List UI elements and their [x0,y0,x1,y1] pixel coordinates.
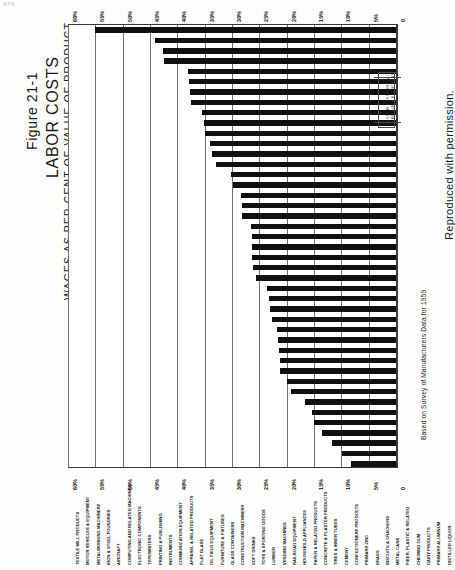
chart-title: LABOR COSTS [44,56,62,178]
bar [280,358,396,363]
bar [270,306,396,311]
bar [342,451,396,456]
bar [351,461,396,466]
bar [242,213,396,218]
category-label: PRINTING & PUBLISHING [158,513,163,565]
page-number: 474 [3,1,15,7]
tick-label: 35% [209,479,215,490]
bar [272,317,396,322]
category-label: BISCUITS & CRACKERS [385,516,390,565]
category-label: TOYS & SPORTING GOODS [261,509,266,565]
tick-label: 10% [345,479,351,490]
bar [287,379,396,384]
bar [252,234,396,239]
tick-label: 5% [373,482,379,490]
bar [190,89,396,94]
tick-label: 20% [291,11,297,22]
category-label: ELECTRONIC COMPONENTS [137,506,142,565]
category-label: DAIRY PRODUCTS [426,527,431,565]
credit-department: RESEARCH DEPARTMENT [391,73,395,119]
bar [256,275,396,280]
bar [332,440,397,445]
category-label: TEXTILE MILL PRODUCTS [75,512,80,565]
bar [253,265,396,270]
permission-note: Reproduced with permission. [443,90,455,240]
bar [212,151,396,156]
bar [291,389,396,394]
category-label: INSTRUMENTS [168,535,173,565]
category-label: PAPER & RELATED PRODUCTS [313,501,318,565]
category-label: FURNITURE & FIXTURES [220,514,225,565]
category-label: OIL FIELD EQUIPMENT [209,518,214,565]
bar [277,327,396,332]
bar [155,38,396,43]
tick-label: 0 [400,487,406,490]
tick-label: 0 [400,19,406,22]
credit-inset-box: FRANCIS I. DU PONT & CO. RESEARCH DEPART… [378,72,395,128]
bar [210,141,396,146]
category-label: FIBER, PLASTIC & RELATED [405,507,410,565]
tick-label: 35% [209,11,215,22]
bar-series [69,25,397,467]
bar [202,110,396,115]
category-label: CHEWING GUM [416,534,421,565]
tick-label: 40% [181,11,187,22]
bar [189,79,396,84]
tick-label: 25% [263,11,269,22]
category-label: IRON & STEEL FOUNDRIES [106,509,111,565]
tick-label: 15% [318,479,324,490]
bar [241,193,396,198]
bar [163,48,396,53]
figure-number: Figure 21-1 [24,72,40,150]
source-note: Based on Survey of Manufacturers Data fo… [420,290,427,440]
category-label: PRIMARY ZINC [364,535,369,565]
category-label: METAL CANS [395,538,400,565]
bar [95,27,396,32]
category-label: TIRES & INNER TUBES [333,518,338,565]
category-label: HOUSEHOLD APPLIANCES [302,510,307,565]
tick-label: 25% [263,479,269,490]
tick-label: 5% [373,14,379,22]
bar [191,100,396,105]
category-label: CONFECTIONERY PRODUCTS [354,504,359,565]
category-label: LUMBER [271,547,276,565]
bar [252,255,396,260]
category-label: CONSTRUCTION MACHINERY [240,504,245,565]
category-label: GLASS CONTAINERS [230,522,235,565]
bar [251,224,396,229]
category-label: VENDING MACHINES [282,522,287,565]
category-label: APPAREL & RELATED PRODUCTS [189,495,194,565]
tick-label: 15% [318,11,324,22]
tick-label: 45% [154,11,160,22]
bar [322,430,396,435]
category-label: METALWORKING MACHINERY [96,504,101,565]
category-label: RAILROAD EQUIPMENT [292,516,297,565]
credit-company: FRANCIS I. DU PONT & CO. [385,69,390,125]
bar [242,203,396,208]
tick-label: 55% [99,479,105,490]
tick-label: 10% [345,11,351,22]
bar [267,286,396,291]
tick-label: 55% [99,11,105,22]
bar [188,69,396,74]
category-label: CONCRETE & PLASTER PRODUCTS [323,491,328,565]
tick-label: 20% [291,479,297,490]
chart-plot-area [68,24,398,468]
bar [312,410,396,415]
tick-label: 45% [154,479,160,490]
tick-label: 30% [236,11,242,22]
category-label: FLAT GLASS [199,539,204,565]
bar [314,420,396,425]
category-label: COMPUTING AND RELATED MACHINES [127,485,132,565]
bar [231,172,396,177]
bar [305,399,396,404]
bar [252,244,396,249]
category-label: MOTOR VEHICLES & EQUIPMENT [85,497,90,565]
category-label: BRASS [375,550,380,565]
bar [216,162,396,167]
bar [278,337,396,342]
bar [233,182,396,187]
bar [164,58,396,63]
tick-label: 50% [127,11,133,22]
bar [204,120,396,125]
